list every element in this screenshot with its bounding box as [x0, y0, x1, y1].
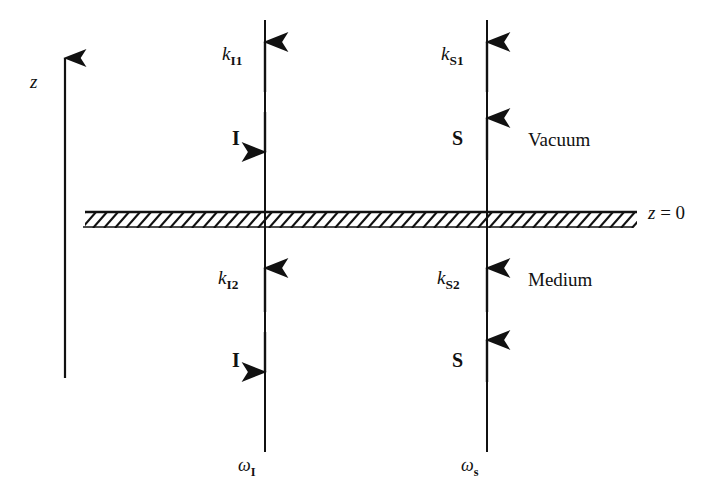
I-upper-arrow-label: I — [232, 128, 240, 148]
hatch-strokes — [71, 212, 657, 228]
interface-hatching — [71, 212, 657, 228]
k-I1-arrow-label: kI1 — [222, 44, 243, 67]
I-lower-arrow-label: I — [232, 350, 240, 370]
figure-canvas: zz = 0VacuumMediumkI1IkI2IωIkS1SkS2Sωs — [0, 0, 712, 495]
incident-beam-frequency-label: ωI — [238, 456, 255, 478]
S-upper-arrow-label: S — [452, 128, 463, 148]
lower-region-label: Medium — [528, 270, 592, 289]
diagram-vector-layer — [0, 0, 712, 495]
k-I2-arrow-label: kI2 — [218, 268, 239, 291]
upper-region-label: Vacuum — [528, 130, 590, 149]
S-lower-arrow-label: S — [452, 350, 463, 370]
k-S1-arrow-label: kS1 — [441, 44, 464, 67]
signal-beam-frequency-label: ωs — [461, 456, 478, 478]
k-S2-arrow-label: kS2 — [437, 268, 460, 291]
hatch-stroke — [71, 212, 85, 228]
z-axis-label: z — [30, 72, 37, 91]
z-equals-zero-label: z = 0 — [648, 203, 685, 222]
